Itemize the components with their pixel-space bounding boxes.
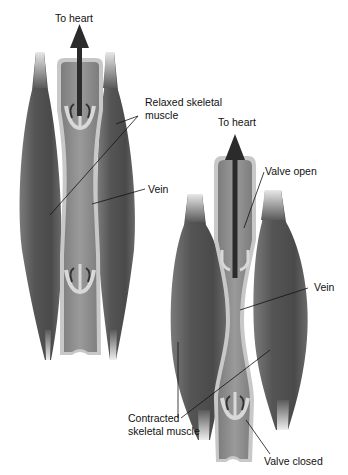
relaxed-muscle-left (20, 52, 62, 360)
label-contracted-muscle-line1: Contracted (128, 412, 179, 424)
left-panel-relaxed (20, 24, 145, 360)
label-vein-right: Vein (314, 281, 334, 293)
right-panel-contracted (171, 134, 308, 462)
label-contracted-muscle-line2: skeletal muscle (128, 425, 200, 437)
label-relaxed-muscle-line1: Relaxed skeletal (145, 96, 222, 108)
label-relaxed-muscle-line2: muscle (145, 109, 178, 121)
label-to-heart-left: To heart (55, 12, 93, 24)
label-valve-closed: Valve closed (264, 455, 323, 467)
label-to-heart-right: To heart (218, 116, 256, 128)
label-valve-open: Valve open (265, 165, 317, 177)
contracted-muscle-right (253, 190, 307, 430)
skeletal-muscle-pump-diagram: To heart Relaxed skeletal muscle Vein To… (0, 0, 348, 475)
diagram-illustration (0, 0, 348, 475)
label-vein-left: Vein (148, 183, 168, 195)
